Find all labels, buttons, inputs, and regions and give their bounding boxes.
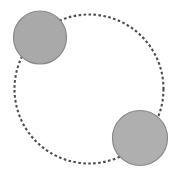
upper-left-circle[interactable] [14, 11, 67, 64]
figure-canvas [0, 0, 179, 180]
lower-right-circle[interactable] [113, 111, 168, 166]
diagram-svg [0, 0, 179, 180]
